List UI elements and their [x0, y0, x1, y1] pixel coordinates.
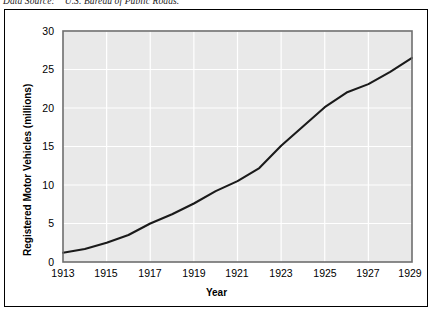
plot-canvas — [0, 0, 433, 321]
line-chart: Registered Motor Vehicles (millions) Yea… — [0, 0, 433, 321]
